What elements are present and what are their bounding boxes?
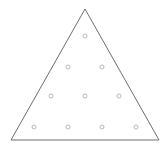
peg-hole[interactable] — [66, 65, 70, 69]
triangle-peg-board — [0, 0, 168, 150]
peg-hole[interactable] — [83, 94, 87, 98]
peg-hole[interactable] — [100, 65, 104, 69]
peg-hole[interactable] — [66, 125, 70, 129]
peg-hole[interactable] — [100, 125, 104, 129]
peg-hole[interactable] — [83, 34, 87, 38]
peg-holes — [32, 34, 138, 129]
peg-hole[interactable] — [32, 125, 36, 129]
peg-hole[interactable] — [134, 125, 138, 129]
peg-hole[interactable] — [49, 94, 53, 98]
board-outline — [11, 9, 159, 140]
peg-hole[interactable] — [117, 94, 121, 98]
